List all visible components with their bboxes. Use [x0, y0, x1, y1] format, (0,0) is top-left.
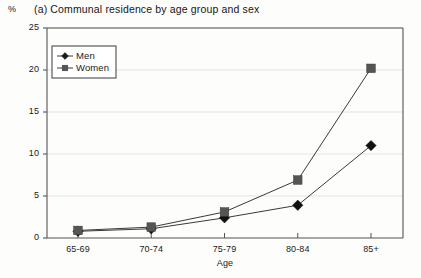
chart-figure: % (a) Communal residence by age group an…: [0, 0, 421, 278]
data-point-men-85+: [366, 140, 376, 150]
x-tick-label-70-74: 70-74: [121, 244, 181, 254]
legend-label-men: Men: [76, 50, 95, 61]
data-point-women-65-69: [74, 226, 83, 235]
x-tick-label-75-79: 75-79: [195, 244, 255, 254]
y-tick-label-10: 10: [15, 148, 39, 158]
x-tick-label-65-69: 65-69: [48, 244, 108, 254]
data-point-women-70-74: [147, 223, 156, 232]
x-axis-title: Age: [185, 258, 265, 268]
y-tick-label-5: 5: [15, 190, 39, 200]
data-point-women-80-84: [293, 176, 302, 185]
data-point-women-85+: [367, 64, 376, 73]
y-tick-label-15: 15: [15, 106, 39, 116]
x-tick-label-80-84: 80-84: [268, 244, 328, 254]
legend-marker-women: [62, 65, 68, 71]
legend-label-women: Women: [76, 62, 109, 73]
series-lines: [78, 68, 371, 231]
x-tick-label-85+: 85+: [341, 244, 401, 254]
series-line-women: [78, 68, 371, 230]
y-tick-label-25: 25: [15, 22, 39, 32]
plot-area: [0, 0, 421, 278]
data-point-women-75-79: [220, 208, 229, 217]
series-markers: [73, 64, 376, 236]
y-tick-label-0: 0: [15, 232, 39, 242]
y-tick-label-20: 20: [15, 64, 39, 74]
data-point-men-80-84: [293, 200, 303, 210]
